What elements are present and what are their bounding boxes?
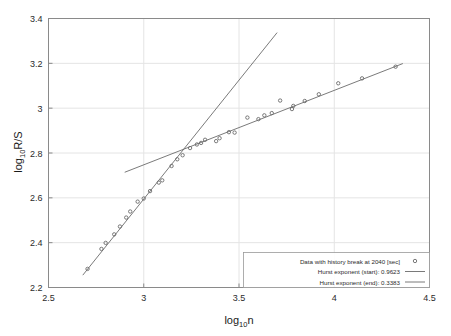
data-point (118, 225, 121, 228)
y-tick-label: 3.2 (30, 59, 43, 69)
data-point (157, 181, 160, 184)
x-tick-label: 2.5 (42, 293, 55, 303)
data-point (337, 82, 340, 85)
y-tick-label: 2.8 (30, 149, 43, 159)
hurst-start-fit-line (83, 33, 277, 276)
y-tick-label: 2.4 (30, 238, 43, 248)
x-tick-label: 3.5 (233, 293, 246, 303)
data-point (246, 116, 249, 119)
legend-label: Hurst exponent (end): 0.3383 (320, 279, 401, 286)
data-point (270, 111, 273, 114)
data-point (233, 131, 236, 134)
y-axis-title-tail: R/S (12, 131, 24, 149)
chart-canvas: 2.533.544.52.22.42.62.833.23.4 log10n lo… (0, 0, 451, 336)
data-point (136, 200, 139, 203)
y-axis-title: log10R/S (12, 131, 27, 172)
data-point (263, 114, 266, 117)
svg-text:log10R/S: log10R/S (12, 131, 27, 172)
x-tick-label: 4 (332, 293, 337, 303)
y-axis-title-base: log (12, 158, 24, 173)
data-point (125, 216, 128, 219)
data-point (129, 210, 132, 213)
y-axis-title-subscript: 10 (18, 150, 27, 158)
fit-line-start (83, 33, 277, 276)
data-point (278, 99, 281, 102)
x-axis-title: log10n (224, 314, 253, 329)
x-tick-label: 3 (141, 293, 146, 303)
chart-legend: Data with history break at 2040 [sec]Hur… (244, 253, 430, 288)
data-point (317, 93, 320, 96)
y-tick-label: 3.4 (30, 14, 43, 24)
data-point (218, 137, 221, 140)
svg-text:log10n: log10n (224, 314, 253, 329)
legend-label: Data with history break at 2040 [sec] (300, 258, 400, 265)
x-tick-label: 4.5 (423, 293, 436, 303)
data-point (100, 247, 103, 250)
legend-label: Hurst exponent (start): 0.9623 (318, 268, 401, 275)
x-axis-title-subscript: 10 (239, 320, 247, 329)
data-point (214, 139, 217, 142)
data-point (181, 154, 184, 157)
data-point (161, 179, 164, 182)
x-axis-title-tail: n (247, 314, 253, 326)
data-points (86, 65, 397, 271)
chart-figure: 2.533.544.52.22.42.62.833.23.4 log10n lo… (0, 0, 451, 336)
y-tick-label: 2.2 (30, 283, 43, 293)
x-axis-title-base: log (224, 314, 239, 326)
y-tick-label: 3 (37, 104, 42, 114)
y-tick-label: 2.6 (30, 193, 43, 203)
